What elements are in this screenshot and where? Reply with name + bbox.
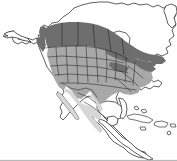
lesser-antilles-outline xyxy=(167,131,171,135)
hispaniola-outline xyxy=(154,121,168,127)
puerto-rico-outline xyxy=(170,124,176,127)
range-map-figure xyxy=(0,0,177,161)
central-america-outline xyxy=(99,119,153,160)
bahamas-outline xyxy=(134,106,139,110)
map-canvas xyxy=(0,0,177,161)
cuba-outline xyxy=(127,114,153,123)
jamaica-outline xyxy=(140,127,146,130)
caribbean-islands-group xyxy=(127,106,176,135)
bahamas-outline-2 xyxy=(141,109,147,113)
